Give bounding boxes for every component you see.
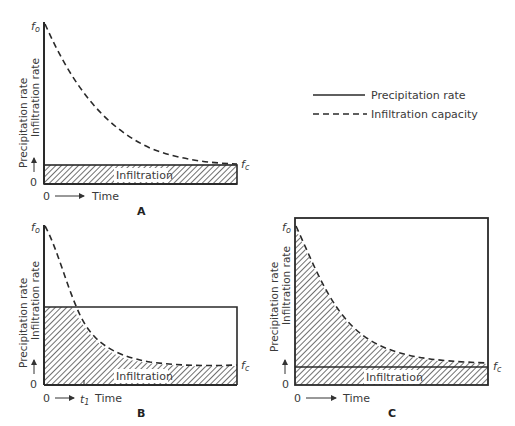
f-o-label: fo	[31, 221, 40, 235]
origin-y-label: 0	[30, 378, 37, 391]
origin-y-label: 0	[30, 176, 37, 189]
y-axis-label-precipitation: Precipitation rate	[17, 78, 29, 168]
diagram-labels: Precipitation rate Infiltration capacity…	[0, 0, 515, 426]
x-axis-label: Time	[94, 392, 122, 405]
y-axis-label-infiltration: Infiltration rate	[280, 246, 292, 325]
infiltration-region-label: Infiltration	[116, 169, 173, 182]
y-axis-label-infiltration: Infiltration rate	[29, 261, 41, 340]
panel-b-labels: fo fc Precipitation rate Infiltration ra…	[17, 221, 250, 420]
origin-x-label: 0	[43, 190, 50, 203]
panel-letter-b: B	[137, 407, 145, 420]
t1-label: t1	[80, 393, 89, 407]
panel-letter-c: C	[388, 407, 396, 420]
origin-x-label: 0	[43, 392, 50, 405]
y-axis-label-precipitation: Precipitation rate	[17, 278, 29, 368]
origin-y-label: 0	[282, 378, 289, 391]
y-axis-label-precipitation: Precipitation rate	[268, 262, 280, 352]
origin-x-label: 0	[294, 392, 301, 405]
f-c-label: fc	[241, 359, 250, 373]
x-axis-label: Time	[91, 190, 119, 203]
legend-infiltration-label: Infiltration capacity	[371, 108, 478, 121]
infiltration-region-label: Infiltration	[366, 371, 423, 384]
infiltration-region-label: Infiltration	[116, 370, 173, 383]
f-c-label: fc	[493, 360, 502, 374]
panel-letter-a: A	[137, 205, 146, 218]
y-axis-label-infiltration: Infiltration rate	[29, 58, 41, 137]
f-o-label: fo	[31, 20, 40, 34]
f-c-label: fc	[241, 158, 250, 172]
panel-c-labels: fo fc Precipitation rate Infiltration ra…	[268, 221, 502, 420]
x-axis-label: Time	[342, 392, 370, 405]
f-o-label: fo	[282, 221, 291, 235]
legend-precipitation-label: Precipitation rate	[371, 89, 466, 102]
panel-a-labels: fo fc Precipitation rate Infiltration ra…	[17, 20, 250, 218]
